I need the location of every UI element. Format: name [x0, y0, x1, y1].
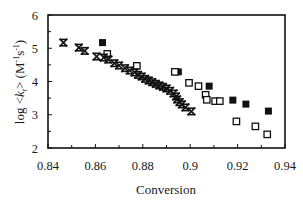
y-tick-label: 4 [32, 75, 39, 89]
x-tick-label: 0.88 [132, 159, 154, 173]
open-square-marker [134, 63, 140, 69]
open-square-marker [195, 83, 201, 89]
x-tick-label: 0.92 [227, 159, 249, 173]
series-filled-square [99, 39, 272, 114]
x-tick-label: 0.94 [274, 159, 297, 173]
filled-square-marker [242, 101, 249, 108]
x-axis-title: Conversion [136, 182, 196, 197]
open-square-marker [204, 97, 210, 103]
y-tick-label: 6 [32, 9, 38, 23]
star-marker [60, 39, 66, 45]
y-axis-title: log <kt> (M-1s-1) [12, 40, 29, 124]
open-square-marker [264, 131, 270, 137]
scatter-chart: 0.840.860.880.90.920.94 23456 Conversion… [0, 0, 303, 205]
star-marker [93, 53, 99, 59]
open-square-marker [217, 98, 223, 104]
y-tick-label: 5 [32, 42, 38, 56]
series-star [60, 39, 194, 114]
open-square-marker [172, 69, 178, 75]
x-tick-label: 0.84 [37, 159, 60, 173]
open-square-marker [186, 80, 192, 86]
open-square-marker [252, 123, 258, 129]
filled-square-marker [206, 83, 213, 90]
plot-area [60, 39, 272, 137]
filled-square-marker [99, 39, 106, 46]
open-square-marker [233, 118, 239, 124]
axes-frame [48, 15, 285, 148]
filled-square-marker [229, 97, 236, 104]
filled-square-marker [265, 108, 272, 115]
series-open-square [104, 51, 270, 138]
y-axis: 23456 [32, 9, 52, 156]
y-tick-label: 2 [32, 142, 38, 156]
x-tick-label: 0.86 [84, 159, 106, 173]
x-tick-label: 0.9 [182, 159, 198, 173]
y-tick-label: 3 [32, 108, 38, 122]
